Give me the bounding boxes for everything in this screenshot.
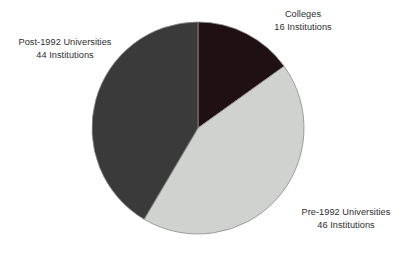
slice-label-colleges-name: Colleges xyxy=(243,8,363,21)
slice-label-post-1992-universities: Post-1992 Universities 44 Institutions xyxy=(4,36,126,61)
slice-label-post-1992-value: 44 Institutions xyxy=(4,49,126,62)
pie-chart-figure: Colleges 16 Institutions Post-1992 Unive… xyxy=(0,0,409,255)
slice-label-pre-1992-name: Pre-1992 Universities xyxy=(285,206,407,219)
slice-label-colleges: Colleges 16 Institutions xyxy=(243,8,363,33)
slice-label-colleges-value: 16 Institutions xyxy=(243,21,363,34)
slice-label-pre-1992-value: 46 Institutions xyxy=(285,219,407,232)
slice-label-pre-1992-universities: Pre-1992 Universities 46 Institutions xyxy=(285,206,407,231)
slice-label-post-1992-name: Post-1992 Universities xyxy=(4,36,126,49)
